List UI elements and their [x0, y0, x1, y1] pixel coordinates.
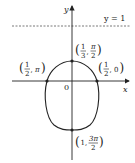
point-left [45, 79, 48, 82]
svg-text:(: ( [75, 135, 80, 149]
point-right [95, 79, 98, 82]
svg-text:,: , [110, 66, 112, 74]
svg-text:): ) [99, 135, 104, 149]
svg-text:1: 1 [25, 61, 29, 69]
svg-text:0: 0 [114, 66, 118, 74]
label-point-right: ( 1 2 , 0 ) [98, 61, 124, 78]
svg-text:): ) [97, 43, 102, 57]
x-axis-label: x [123, 85, 128, 94]
svg-text:(: ( [98, 61, 103, 75]
svg-text:,: , [87, 48, 89, 56]
origin-label: 0 [64, 83, 69, 92]
svg-text:π: π [34, 66, 40, 74]
polar-graph: y = 1 x y 0 ( 1 2 , π ) ( 1 3 , π 2 ) ( … [0, 0, 135, 163]
svg-text:(: ( [75, 43, 80, 57]
label-point-left: ( 1 2 , π ) [19, 61, 46, 78]
point-bottom [70, 128, 73, 131]
point-top [70, 59, 73, 62]
label-point-bottom: ( 1 , 3π 2 ) [75, 135, 104, 152]
asymptote-label: y = 1 [103, 14, 125, 23]
svg-text:3π: 3π [89, 135, 98, 143]
svg-text:2: 2 [91, 52, 95, 60]
svg-text:,: , [85, 139, 87, 147]
svg-text:1: 1 [104, 61, 108, 69]
svg-text:2: 2 [104, 70, 108, 78]
svg-text:2: 2 [25, 70, 29, 78]
svg-text:,: , [31, 66, 33, 74]
svg-text:): ) [41, 61, 46, 75]
svg-text:): ) [120, 61, 125, 75]
svg-text:1: 1 [81, 43, 85, 51]
svg-text:π: π [90, 43, 96, 51]
svg-text:2: 2 [91, 144, 95, 152]
svg-text:(: ( [19, 61, 24, 75]
y-axis-label: y [63, 5, 69, 14]
label-point-top: ( 1 3 , π 2 ) [75, 43, 102, 60]
svg-text:3: 3 [81, 52, 85, 60]
